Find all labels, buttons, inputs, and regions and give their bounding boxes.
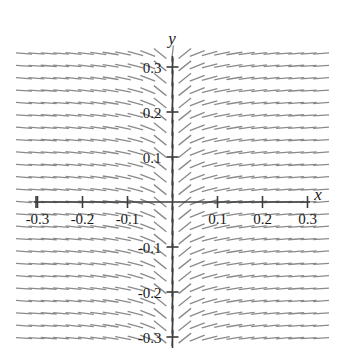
x-tick-label: -0.3 — [26, 211, 50, 227]
y-tick-label: -0.3 — [138, 330, 162, 346]
y-tick-label: 0.3 — [143, 60, 162, 76]
slope-field-plot: -0.3-0.2-0.10.10.20.3-0.3-0.2-0.10.10.20… — [0, 0, 337, 364]
x-tick-label: -0.1 — [116, 211, 140, 227]
x-tick-label: -0.2 — [71, 211, 95, 227]
axes-layer — [34, 56, 310, 348]
x-axis-label: x — [313, 185, 322, 204]
x-tick-label: 0.2 — [253, 211, 272, 227]
slope-field-figure: -0.3-0.2-0.10.10.20.3-0.3-0.2-0.10.10.20… — [0, 0, 337, 364]
x-tick-label: 0.1 — [208, 211, 227, 227]
y-tick-label: -0.1 — [138, 240, 162, 256]
y-tick-label: -0.2 — [138, 285, 162, 301]
y-axis-label: y — [166, 29, 176, 48]
y-tick-label: 0.1 — [143, 150, 162, 166]
y-tick-label: 0.2 — [143, 105, 162, 121]
x-tick-label: 0.3 — [298, 211, 317, 227]
